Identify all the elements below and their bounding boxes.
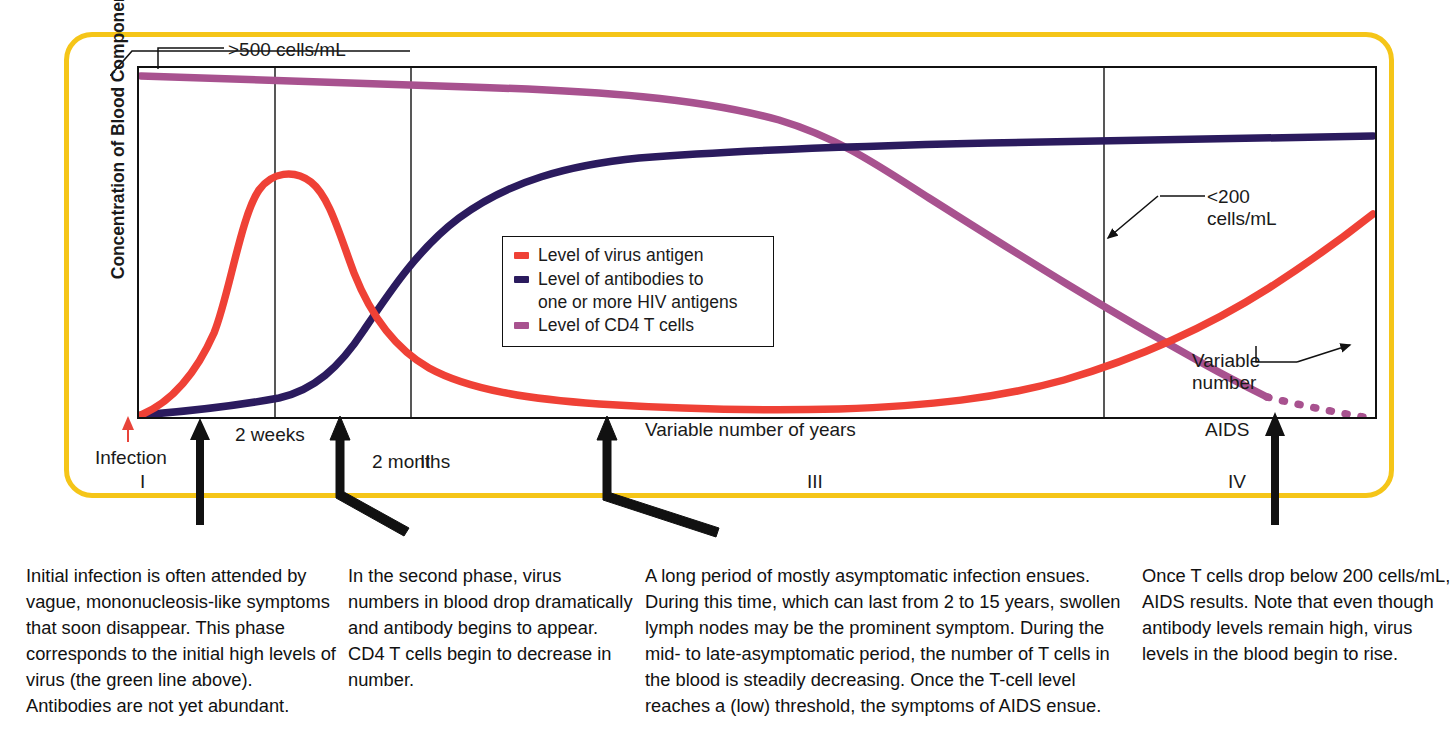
legend-swatch-antibody-icon [514,276,529,283]
phase-numeral-i: I [140,471,145,493]
y-axis-label: Concentration of Blood Component [108,0,129,283]
timeline-label-variable-years: Variable number of years [645,419,856,441]
annotation-lower-threshold: <200 cells/mL [1207,186,1277,231]
legend-label-virus: Level of virus antigen [538,244,703,267]
caption-phase-1: Initial infection is often attended by v… [26,563,336,719]
legend-label-cd4: Level of CD4 T cells [538,314,694,337]
caption-phase-2: In the second phase, virus numbers in bl… [348,563,636,693]
timeline-label-2-weeks: 2 weeks [235,424,305,446]
caption-phase-3: A long period of mostly asymptomatic inf… [645,563,1137,719]
legend-item-cd4: Level of CD4 T cells [514,314,763,337]
timeline-label-infection: Infection [95,447,167,469]
annotation-variable-number: Variable number [1192,350,1260,395]
legend-item-virus: Level of virus antigen [514,244,763,267]
annotation-upper-threshold: >500 cells/mL [228,39,346,61]
curve-cd4-tcells-extrapolated [1267,397,1369,417]
phase-numeral-iii: III [807,471,823,493]
legend-swatch-virus-icon [514,252,529,259]
phase-numeral-ii: II [420,451,431,473]
timeline-label-2-months: 2 months [372,451,450,473]
legend-item-antibody: Level of antibodies to one or more HIV a… [514,268,763,314]
legend-swatch-cd4-icon [514,322,529,329]
timeline-label-aids: AIDS [1205,419,1249,441]
phase-numeral-iv: IV [1228,471,1246,493]
legend: Level of virus antigen Level of antibodi… [502,236,774,347]
legend-label-antibody: Level of antibodies to one or more HIV a… [538,268,737,314]
caption-phase-4: Once T cells drop below 200 cells/mL, AI… [1142,563,1452,667]
